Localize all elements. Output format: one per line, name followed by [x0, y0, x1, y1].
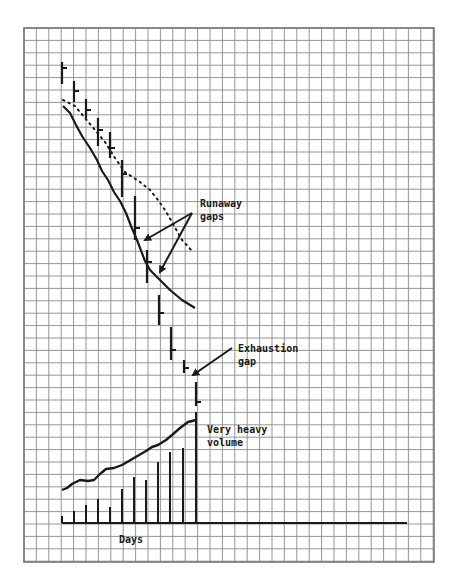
chart-canvas: RunawaygapsExhaustiongapVery heavyvolume…	[0, 0, 458, 587]
price-bar	[135, 196, 140, 240]
annotation-text: Exhaustion	[238, 343, 298, 354]
arrow-icon	[193, 348, 232, 375]
trend-lines	[63, 100, 195, 308]
annotation-text: Very heavy	[207, 424, 267, 435]
price-bar	[171, 327, 176, 360]
price-bar	[110, 132, 115, 158]
price-bar	[196, 382, 201, 406]
price-bar	[159, 295, 164, 325]
annotation-text: gaps	[200, 211, 224, 222]
annotation-text: gap	[238, 356, 256, 367]
price-bar	[184, 360, 189, 373]
dotted-trend-line	[63, 100, 193, 252]
x-axis-label: Days	[119, 534, 143, 545]
volume-trend-curve	[62, 420, 196, 490]
price-bar	[74, 81, 79, 102]
annotation-runaway: Runawaygaps	[145, 198, 242, 272]
annotations: RunawaygapsExhaustiongapVery heavyvolume	[145, 198, 298, 448]
price-bar	[122, 160, 127, 197]
annotation-text: Runaway	[200, 198, 242, 209]
price-bar	[98, 118, 103, 146]
solid-trend-line	[63, 106, 195, 308]
annotation-exhaustion: Exhaustiongap	[193, 343, 298, 375]
annotation-text: volume	[207, 437, 243, 448]
annotation-volume: Very heavyvolume	[207, 424, 267, 448]
